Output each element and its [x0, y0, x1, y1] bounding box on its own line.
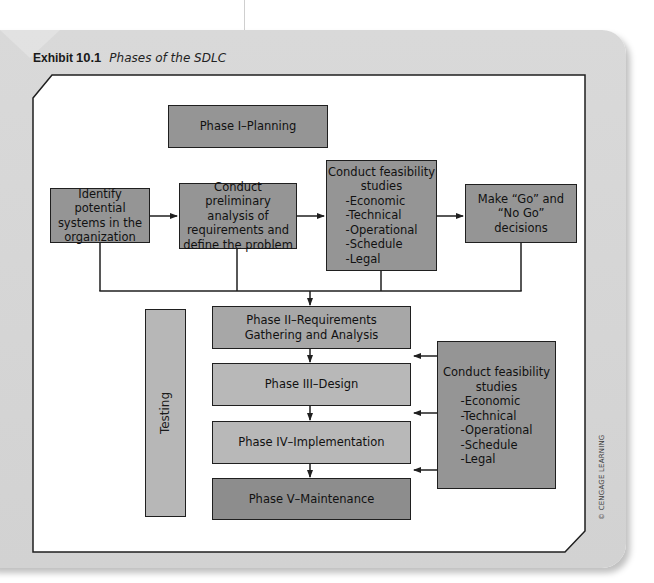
- feasibility-title: Conduct feasibility studies: [327, 165, 436, 194]
- phase-3-design-box: Phase III–Design: [212, 363, 411, 406]
- phase-3-label: Phase III–Design: [265, 377, 359, 392]
- side-feasibility-list: -Economic -Technical -Operational -Sched…: [461, 394, 533, 467]
- identify-systems-box: Identify potential systems in the organi…: [50, 188, 150, 243]
- testing-bar: Testing: [145, 309, 186, 517]
- testing-label: Testing: [159, 392, 173, 434]
- preliminary-analysis-text: Conduct preliminary analysis of requirem…: [183, 180, 293, 253]
- feasibility-item: -Economic: [346, 194, 418, 209]
- phase-1-planning-box: Phase I–Planning: [168, 105, 328, 148]
- go-no-go-decision-box: Make “Go” and “No Go” decisions: [465, 184, 577, 243]
- phase-2-requirements-box: Phase II–Requirements Gathering and Anal…: [212, 306, 411, 349]
- phase-5-maintenance-box: Phase V–Maintenance: [212, 478, 411, 520]
- preliminary-analysis-box: Conduct preliminary analysis of requirem…: [179, 183, 297, 249]
- side-feasibility-item: -Operational: [461, 423, 533, 438]
- feasibility-studies-box-side: Conduct feasibility studies -Economic -T…: [437, 341, 556, 489]
- phase-2-label: Phase II–Requirements Gathering and Anal…: [219, 313, 404, 342]
- feasibility-list: -Economic -Technical -Operational -Sched…: [346, 194, 418, 267]
- side-feasibility-title: Conduct feasibility studies: [438, 365, 555, 394]
- go-no-go-text: Make “Go” and “No Go” decisions: [470, 192, 572, 236]
- identify-systems-text: Identify potential systems in the organi…: [54, 187, 146, 245]
- feasibility-item: -Operational: [346, 223, 418, 238]
- side-feasibility-item: -Economic: [461, 394, 533, 409]
- side-feasibility-item: -Schedule: [461, 438, 533, 453]
- phase-5-label: Phase V–Maintenance: [249, 492, 375, 507]
- feasibility-studies-box-top: Conduct feasibility studies -Economic -T…: [326, 160, 437, 271]
- feasibility-item: -Schedule: [346, 237, 418, 252]
- phase-4-label: Phase IV–Implementation: [238, 435, 384, 450]
- feasibility-item: -Legal: [346, 252, 418, 267]
- side-feasibility-item: -Technical: [461, 409, 533, 424]
- feasibility-item: -Technical: [346, 208, 418, 223]
- phase-1-label: Phase I–Planning: [200, 119, 297, 134]
- copyright-credit: © CENGAGE LEARNING: [598, 435, 606, 520]
- side-feasibility-item: -Legal: [461, 452, 533, 467]
- phase-4-implementation-box: Phase IV–Implementation: [212, 421, 411, 464]
